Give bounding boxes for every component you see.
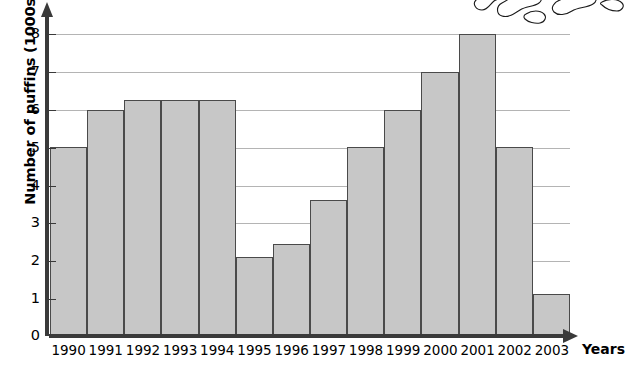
x-tick-label-1994: 1994 [199,342,236,358]
y-tick-mark-4 [49,186,56,187]
x-tick-label-1998: 1998 [347,342,384,358]
x-axis-arrow-icon [563,329,578,343]
x-tick-label-2001: 2001 [459,342,496,358]
bar-2001 [459,34,496,336]
x-axis-title: Years [582,341,625,357]
y-tick-mark-7 [49,72,56,73]
bar-1997 [310,200,347,336]
y-tick-label-7: 7 [18,63,40,79]
y-tick-mark-2 [49,261,56,262]
bar-2002 [496,147,533,336]
x-axis-line [49,334,566,338]
bar-1992 [124,100,161,336]
y-tick-label-5: 5 [18,139,40,155]
x-tick-label-1995: 1995 [236,342,273,358]
y-tick-mark-1 [49,299,56,300]
y-tick-label-8: 8 [18,25,40,41]
bar-1999 [384,110,421,337]
y-tick-label-3: 3 [18,214,40,230]
y-axis-arrow-icon [41,2,53,17]
y-tick-label-6: 6 [18,101,40,117]
bar-1994 [199,100,236,336]
x-tick-label-1997: 1997 [310,342,347,358]
bar-1990 [50,147,87,336]
y-axis-line [45,14,49,336]
bar-2000 [421,72,458,336]
bar-chart: Number of puffins (1000s) [0,0,626,367]
y-tick-mark-3 [49,223,56,224]
y-tick-mark-8 [49,34,56,35]
bar-1995 [236,257,273,336]
bar-1991 [87,110,124,337]
y-tick-label-2: 2 [18,252,40,268]
bar-1993 [161,100,198,336]
x-tick-label-1999: 1999 [385,342,422,358]
x-tick-label-1991: 1991 [87,342,124,358]
x-tick-label-2000: 2000 [422,342,459,358]
x-tick-label-2002: 2002 [496,342,533,358]
y-tick-mark-0 [49,336,56,337]
x-tick-label-1996: 1996 [273,342,310,358]
bar-1996 [273,244,310,336]
x-tick-label-1990: 1990 [50,342,87,358]
x-tick-label-1993: 1993 [162,342,199,358]
x-tick-label-2003: 2003 [533,342,570,358]
y-tick-mark-5 [49,148,56,149]
y-tick-label-4: 4 [18,177,40,193]
bar-1998 [347,147,384,336]
bars-layer [50,20,570,336]
y-tick-label-1: 1 [18,290,40,306]
x-tick-label-1992: 1992 [124,342,161,358]
y-tick-mark-6 [49,110,56,111]
y-tick-label-0: 0 [18,327,40,343]
